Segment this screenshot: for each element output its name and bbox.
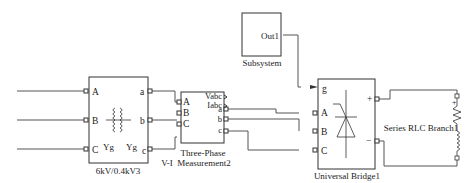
inductor-icon (457, 131, 460, 151)
transformer-port-a-label: A (92, 87, 99, 97)
bridge-port-a-label: A (321, 108, 328, 118)
bridge-name: Universal Bridge1 (314, 171, 380, 181)
meas-out-c-label: c (218, 125, 222, 135)
simulink-diagram: A B C a b c Yg Yg 6kV/0.4kV3 A B C Vabc … (0, 0, 474, 183)
meas-port-b-label: B (183, 108, 189, 118)
g-inport-arrow-icon (310, 85, 318, 89)
bridge-g-label: g (322, 84, 327, 94)
resistor-icon (453, 106, 461, 124)
transformer-port-b-label: B (92, 116, 98, 126)
winding-left-label: Yg (103, 142, 114, 152)
bridge-minus-label: − (366, 136, 371, 146)
bridge-port-c-label: C (321, 146, 327, 156)
subsystem-name: Subsystem (242, 58, 281, 68)
rlc-plus-label: + (452, 98, 457, 107)
winding-right-label: Yg (126, 142, 137, 152)
bridge-port-b-label: B (321, 127, 327, 137)
meas-out-a-label: a (218, 104, 222, 114)
bridge-plus-label: + (367, 94, 372, 104)
meas-port-a-label: A (183, 97, 190, 107)
transformer-name: 6kV/0.4kV3 (96, 166, 141, 176)
meas-port-c-label: C (183, 119, 189, 129)
transformer-port-c-label: C (92, 145, 98, 155)
transformer-port-b-out-label: b (140, 116, 145, 126)
meas-out-b-label: b (218, 114, 222, 124)
out1-label: Out1 (261, 31, 279, 41)
rlc-name: Series RLC Branch1 (384, 123, 459, 133)
meas-name-line2: V-I Measurement2 (161, 158, 231, 168)
meas-name-line1: Three-Phase (181, 148, 226, 158)
transformer-port-c-out-label: c (142, 146, 146, 156)
